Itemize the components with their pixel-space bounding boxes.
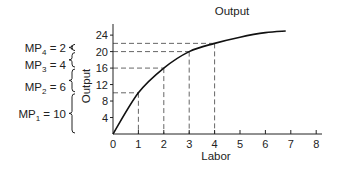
x-tick-label: 5 [237, 138, 243, 150]
x-tick-label: 8 [313, 138, 319, 150]
y-tick-label: 16 [96, 62, 108, 74]
axis-labels: 0123456784812162024 [96, 29, 320, 150]
y-tick-label: 20 [96, 46, 108, 58]
x-axis-label: Labor [201, 150, 231, 162]
y-axis-label: Output [80, 68, 92, 103]
chart-title: Output [215, 5, 250, 17]
y-tick-label: 4 [102, 112, 108, 124]
brace-icon [69, 94, 75, 133]
mp-label: MP3 = 4 [25, 59, 67, 74]
brace-icon [69, 44, 75, 50]
marginal-product-annotations: MP4 = 2MP3 = 4MP2 = 6MP1 = 10 [18, 42, 75, 133]
x-tick-label: 1 [135, 138, 141, 150]
x-tick-label: 0 [110, 138, 116, 150]
x-tick-label: 4 [212, 138, 218, 150]
y-tick-label: 12 [96, 79, 108, 91]
axes [110, 24, 322, 134]
x-tick-label: 3 [186, 138, 192, 150]
brace-icon [69, 53, 75, 67]
mp-label: MP1 = 10 [18, 108, 66, 123]
y-tick-label: 24 [96, 29, 108, 41]
brace-icon [69, 69, 75, 92]
x-tick-label: 2 [161, 138, 167, 150]
x-tick-label: 7 [288, 138, 294, 150]
mp-label: MP2 = 6 [25, 81, 66, 96]
output-chart: 0123456784812162024 Output Labor Output … [0, 0, 338, 179]
mp-label: MP4 = 2 [25, 42, 66, 57]
x-tick-label: 6 [262, 138, 268, 150]
output-curve [113, 31, 286, 134]
y-tick-label: 8 [102, 95, 108, 107]
reference-dashes [113, 43, 215, 134]
